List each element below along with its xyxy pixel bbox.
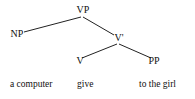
- node-np: NP: [11, 28, 24, 39]
- edge-vp-np: [24, 17, 81, 32]
- node-vp: VP: [77, 4, 90, 15]
- node-v: V: [76, 55, 84, 66]
- edge-vp-vbar: [83, 17, 114, 35]
- terminal-word: a computer: [10, 79, 53, 89]
- terminal-words: a computergiveto the girl: [10, 79, 176, 89]
- node-pp: PP: [148, 55, 160, 66]
- edge-vbar-v: [82, 44, 117, 58]
- syntax-tree-diagram: VPNPV'VPP a computergiveto the girl: [0, 0, 195, 99]
- edge-vbar-pp: [119, 44, 151, 58]
- tree-edges: [24, 17, 151, 58]
- terminal-word: give: [77, 79, 93, 89]
- node-vbar: V': [114, 32, 123, 43]
- terminal-word: to the girl: [139, 79, 176, 89]
